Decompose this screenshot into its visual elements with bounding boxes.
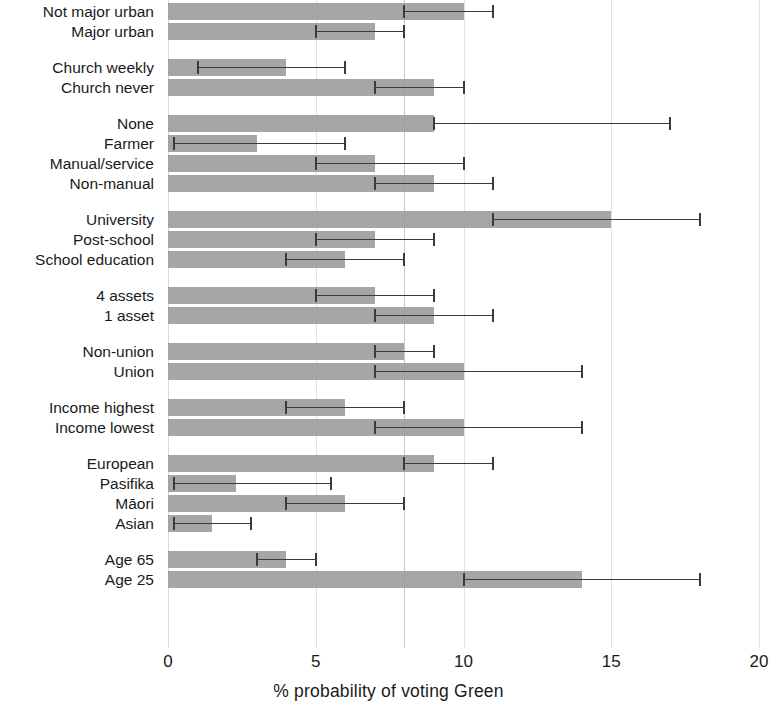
category-label: Non-manual xyxy=(70,174,154,194)
bar-row xyxy=(168,398,759,418)
bar-row xyxy=(168,2,759,22)
bar-row xyxy=(168,494,759,514)
error-bar-cap-low xyxy=(315,25,317,38)
error-bar-cap-low xyxy=(374,345,376,358)
error-bar xyxy=(316,239,434,240)
category-label: Age 65 xyxy=(105,550,154,570)
bar-row xyxy=(168,514,759,534)
error-bar xyxy=(375,427,582,428)
bar-row xyxy=(168,474,759,494)
category-label: Not major urban xyxy=(43,2,154,22)
bar-row xyxy=(168,114,759,134)
bar-row xyxy=(168,210,759,230)
category-label: Union xyxy=(114,362,155,382)
error-bar-cap-high xyxy=(403,401,405,414)
error-bar-cap-high xyxy=(699,573,701,586)
error-bar-cap-high xyxy=(403,253,405,266)
error-bar-cap-low xyxy=(197,61,199,74)
error-bar-cap-high xyxy=(492,309,494,322)
error-bar-cap-low xyxy=(433,117,435,130)
category-label: Major urban xyxy=(71,22,154,42)
error-bar-cap-high xyxy=(669,117,671,130)
category-label: Non-union xyxy=(82,342,154,362)
error-bar-cap-high xyxy=(344,61,346,74)
error-bar-cap-high xyxy=(344,137,346,150)
bar-row xyxy=(168,306,759,326)
error-bar-cap-low xyxy=(173,477,175,490)
error-bar-cap-low xyxy=(374,177,376,190)
error-bar-cap-low xyxy=(285,253,287,266)
error-bar xyxy=(404,463,493,464)
error-bar xyxy=(198,67,346,68)
category-label: Church never xyxy=(61,78,154,98)
error-bar xyxy=(375,87,464,88)
category-label: Income highest xyxy=(49,398,154,418)
error-bar-cap-high xyxy=(581,365,583,378)
error-bar-cap-high xyxy=(699,213,701,226)
error-bar-cap-low xyxy=(374,421,376,434)
category-label: Māori xyxy=(115,494,154,514)
error-bar-cap-high xyxy=(403,497,405,510)
error-bar-cap-high xyxy=(492,5,494,18)
error-bar-cap-high xyxy=(250,517,252,530)
bar-row xyxy=(168,286,759,306)
bar-chart-figure: Not major urbanMajor urbanChurch weeklyC… xyxy=(0,0,777,718)
error-bar-cap-high xyxy=(433,233,435,246)
error-bar xyxy=(375,371,582,372)
error-bar-cap-low xyxy=(173,137,175,150)
bar-row xyxy=(168,22,759,42)
error-bar-cap-low xyxy=(315,289,317,302)
error-bar xyxy=(316,163,464,164)
error-bar-cap-high xyxy=(463,157,465,170)
bar-row xyxy=(168,362,759,382)
error-bar xyxy=(286,503,404,504)
bar-row xyxy=(168,418,759,438)
category-label: Income lowest xyxy=(55,418,154,438)
error-bar-cap-low xyxy=(463,573,465,586)
gridline-20 xyxy=(759,0,760,648)
error-bar xyxy=(174,143,345,144)
plot-area xyxy=(168,0,759,648)
category-label: 4 assets xyxy=(96,286,154,306)
error-bar-cap-low xyxy=(285,497,287,510)
bar-row xyxy=(168,550,759,570)
category-label-column: Not major urbanMajor urbanChurch weeklyC… xyxy=(0,0,162,648)
error-bar xyxy=(375,183,493,184)
bar-row xyxy=(168,250,759,270)
category-label: 1 asset xyxy=(104,306,154,326)
bar xyxy=(168,455,434,472)
error-bar-cap-low xyxy=(374,365,376,378)
x-tick-label-15: 15 xyxy=(602,652,621,672)
bar-row xyxy=(168,174,759,194)
category-label: Asian xyxy=(115,514,154,534)
error-bar-cap-high xyxy=(330,477,332,490)
x-axis: 05101520 xyxy=(168,648,759,678)
bar-row xyxy=(168,154,759,174)
error-bar-cap-high xyxy=(463,81,465,94)
error-bar xyxy=(174,483,331,484)
error-bar-cap-low xyxy=(403,5,405,18)
category-label: None xyxy=(117,114,154,134)
category-label: Age 25 xyxy=(105,570,154,590)
error-bar-cap-low xyxy=(492,213,494,226)
error-bar-cap-low xyxy=(173,517,175,530)
x-tick-label-0: 0 xyxy=(163,652,172,672)
error-bar-cap-low xyxy=(374,81,376,94)
category-label: Post-school xyxy=(73,230,154,250)
category-label: School education xyxy=(35,250,154,270)
bar-row xyxy=(168,78,759,98)
bar xyxy=(168,343,404,360)
error-bar-cap-high xyxy=(403,25,405,38)
error-bar-cap-high xyxy=(433,289,435,302)
error-bar xyxy=(375,351,434,352)
bar-row xyxy=(168,342,759,362)
category-label: Pasifika xyxy=(100,474,154,494)
error-bar xyxy=(286,259,404,260)
error-bar-cap-low xyxy=(374,309,376,322)
category-label: Church weekly xyxy=(52,58,154,78)
x-tick-label-5: 5 xyxy=(311,652,320,672)
category-label: European xyxy=(87,454,154,474)
bar-row xyxy=(168,134,759,154)
error-bar-cap-high xyxy=(492,457,494,470)
bar-row xyxy=(168,230,759,250)
